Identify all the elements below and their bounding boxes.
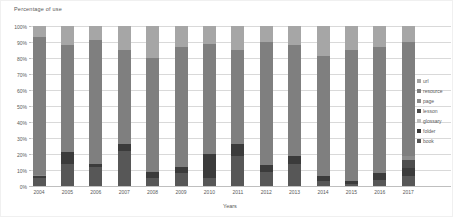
bar-segment-url-2007: [118, 26, 131, 50]
bar-segment-resource-2008: [146, 58, 159, 172]
x-tick-label: 2014: [311, 189, 335, 195]
bar-segment-folder-2008: [146, 172, 159, 178]
y-tick-label: 30%: [9, 136, 27, 142]
bar-segment-page-2017: [402, 156, 415, 161]
bar-segment-book-2016: [373, 180, 386, 186]
bar-segment-folder-2010: [203, 154, 216, 178]
legend-label-resource: resource: [423, 88, 442, 94]
bar-segment-resource-2015: [345, 50, 358, 181]
legend-label-url: url: [423, 78, 429, 84]
bar-segment-resource-2012: [260, 42, 273, 165]
y-tick-label: 10%: [9, 168, 27, 174]
bar-segment-folder-2011: [231, 144, 244, 155]
bar-segment-book-2017: [402, 176, 415, 186]
legend-item-lesson: lesson: [417, 106, 442, 116]
bar-segment-book-2011: [231, 156, 244, 186]
bar-segment-folder-2014: [317, 176, 330, 181]
x-tick-label: 2012: [254, 189, 278, 195]
legend-swatch-book: [417, 139, 421, 143]
bar-segment-book-2010: [203, 178, 216, 186]
bar-segment-book-2006: [89, 167, 102, 186]
y-tick-mark: [29, 74, 31, 75]
bar-segment-resource-2017: [402, 42, 415, 156]
chart-legend: urlresourcepagelessonglossaryfolderbook: [417, 76, 442, 146]
bar-segment-url-2014: [317, 26, 330, 56]
y-tick-label: 90%: [9, 40, 27, 46]
y-tick-label: 40%: [9, 120, 27, 126]
x-tick-label: 2010: [197, 189, 221, 195]
x-tick-label: 2017: [396, 189, 420, 195]
x-tick-label: 2013: [283, 189, 307, 195]
y-tick-label: 50%: [9, 104, 27, 110]
y-tick-label: 100%: [9, 24, 27, 30]
bar-segment-folder-2007: [118, 144, 131, 150]
bar-segment-folder-2005: [61, 152, 74, 163]
y-tick-mark: [29, 122, 31, 123]
bar-segment-lesson-2017: [402, 160, 415, 168]
y-tick-mark: [29, 26, 31, 27]
y-tick-mark: [29, 154, 31, 155]
bar-segment-resource-2010: [203, 44, 216, 154]
y-tick-label: 20%: [9, 152, 27, 158]
stacked-bar-chart: Percentage of use 0%10%20%30%40%50%60%70…: [0, 0, 453, 217]
bar-segment-resource-2016: [373, 47, 386, 173]
bar-segment-book-2014: [317, 181, 330, 186]
legend-swatch-page: [417, 99, 421, 103]
bar-segment-url-2005: [61, 26, 74, 45]
y-tick-mark: [29, 42, 31, 43]
gridline-0%: [31, 186, 451, 187]
legend-swatch-url: [417, 79, 421, 83]
bar-segment-url-2012: [260, 26, 273, 42]
x-axis-title: Years: [223, 203, 237, 209]
legend-swatch-resource: [417, 89, 421, 93]
legend-swatch-folder: [417, 129, 421, 133]
legend-swatch-glossary: [417, 119, 421, 123]
bar-segment-url-2006: [89, 26, 102, 40]
bar-segment-url-2009: [175, 26, 188, 47]
bar-segment-book-2007: [118, 151, 131, 186]
bar-segment-resource-2014: [317, 56, 330, 176]
bar-segment-folder-2009: [175, 167, 188, 173]
x-tick-label: 2004: [27, 189, 51, 195]
bar-segment-folder-2006: [89, 164, 102, 167]
bar-segment-url-2015: [345, 26, 358, 50]
legend-label-lesson: lesson: [423, 108, 437, 114]
bar-segment-resource-2005: [61, 45, 74, 152]
x-tick-label: 2011: [226, 189, 250, 195]
x-tick-label: 2005: [55, 189, 79, 195]
x-tick-label: 2016: [368, 189, 392, 195]
y-tick-mark: [29, 58, 31, 59]
legend-item-folder: folder: [417, 126, 442, 136]
x-tick-label: 2015: [339, 189, 363, 195]
bar-segment-folder-2012: [260, 165, 273, 171]
bar-segment-url-2011: [231, 26, 244, 50]
bar-segment-url-2016: [373, 26, 386, 47]
bar-segment-folder-2004: [33, 176, 46, 178]
bar-segment-url-2004: [33, 26, 46, 37]
y-tick-mark: [29, 90, 31, 91]
y-tick-mark: [29, 186, 31, 187]
bar-segment-folder-2017: [402, 168, 415, 176]
bar-segment-url-2017: [402, 26, 415, 42]
bar-segment-book-2008: [146, 178, 159, 186]
x-tick-label: 2006: [84, 189, 108, 195]
x-tick-label: 2009: [169, 189, 193, 195]
bar-segment-resource-2006: [89, 40, 102, 163]
y-tick-label: 60%: [9, 88, 27, 94]
bar-segment-page-2004: [33, 175, 46, 177]
bar-segment-book-2004: [33, 178, 46, 186]
legend-item-resource: resource: [417, 86, 442, 96]
plot-area: 0%10%20%30%40%50%60%70%80%90%100%2004200…: [1, 1, 453, 217]
legend-item-book: book: [417, 136, 442, 146]
x-tick-label: 2008: [141, 189, 165, 195]
bar-segment-url-2008: [146, 26, 159, 58]
bar-segment-resource-2007: [118, 50, 131, 144]
legend-item-glossary: glossary: [417, 116, 442, 126]
bar-segment-book-2013: [288, 164, 301, 186]
bar-segment-folder-2016: [373, 173, 386, 179]
legend-label-folder: folder: [423, 128, 436, 134]
legend-item-url: url: [417, 76, 442, 86]
y-tick-mark: [29, 138, 31, 139]
bar-segment-folder-2013: [288, 156, 301, 164]
bar-segment-resource-2013: [288, 45, 301, 155]
